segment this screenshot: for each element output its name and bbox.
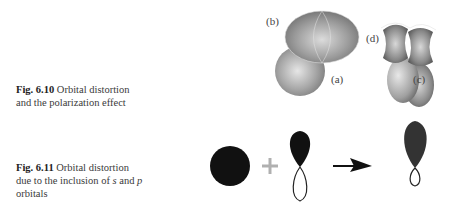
p-orbital-icon bbox=[290, 131, 310, 201]
figure-6-10-graphic bbox=[0, 0, 455, 220]
s-orbital-icon bbox=[210, 146, 250, 186]
panel-label-a: (a) bbox=[331, 73, 343, 85]
panel-label-c: (c) bbox=[413, 73, 425, 85]
plus-icon bbox=[262, 158, 278, 174]
arrow-icon bbox=[333, 158, 372, 172]
panel-label-b: (b) bbox=[266, 15, 279, 27]
orbital-b-ellipsoid bbox=[285, 11, 359, 63]
hybrid-orbital-icon bbox=[404, 121, 427, 186]
panel-label-d: (d) bbox=[366, 32, 379, 44]
figure-6-11-graphic bbox=[210, 121, 427, 201]
